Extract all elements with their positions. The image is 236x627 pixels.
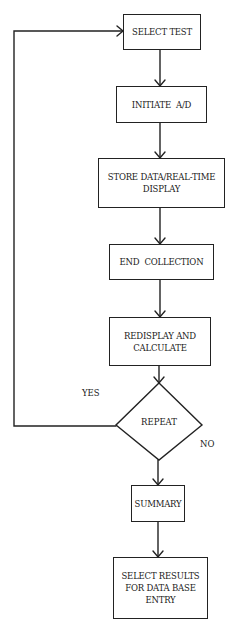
node-store-data: STORE DATA/REAL-TIME DISPLAY bbox=[98, 158, 225, 208]
node-select-test: SELECT TEST bbox=[123, 14, 201, 50]
node-end-collection: END COLLECTION bbox=[109, 244, 214, 280]
edge-repeat-yes-loop bbox=[14, 31, 123, 426]
node-initiate-ad: INITIATE A/D bbox=[116, 86, 207, 123]
branch-label-no: NO bbox=[200, 439, 214, 449]
node-select-results: SELECT RESULTS FOR DATA BASE ENTRY bbox=[113, 557, 208, 619]
branch-label-yes: YES bbox=[82, 388, 100, 398]
node-redisplay-calculate: REDISPLAY AND CALCULATE bbox=[109, 317, 211, 366]
node-repeat-label: REPEAT bbox=[116, 383, 202, 460]
node-summary: SUMMARY bbox=[131, 485, 185, 522]
